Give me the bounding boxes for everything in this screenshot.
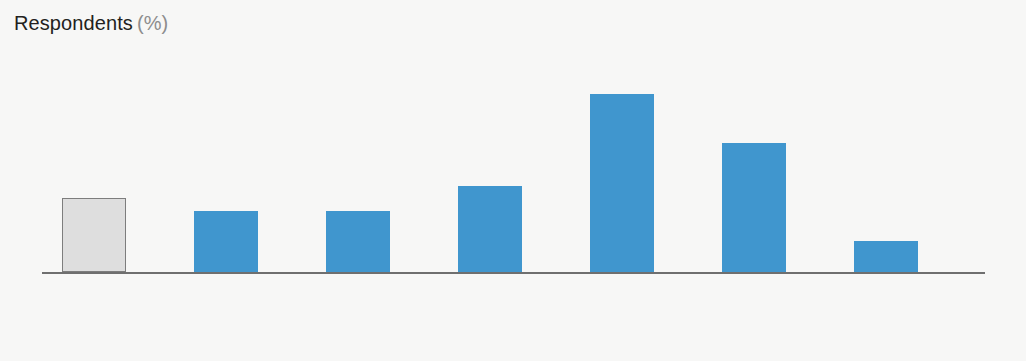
bar[interactable] (62, 198, 126, 272)
bar-series: 12N/A ordon’t know10No increase10Increas… (0, 0, 1026, 361)
bar-chart-plot: 12N/A ordon’t know10No increase10Increas… (0, 0, 1026, 361)
bar[interactable] (458, 186, 522, 272)
bar[interactable] (194, 211, 258, 272)
bar[interactable] (326, 211, 390, 272)
bar[interactable] (590, 94, 654, 272)
bar[interactable] (722, 143, 786, 272)
bar[interactable] (854, 241, 918, 272)
